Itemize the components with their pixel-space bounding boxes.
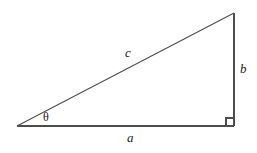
adjacent-side-label: a — [127, 131, 134, 144]
side-c-line — [17, 13, 234, 126]
right-triangle-figure: c b a θ — [0, 0, 257, 153]
opposite-side-label: b — [240, 62, 247, 75]
theta-angle-label: θ — [43, 111, 49, 123]
hypotenuse-label: c — [125, 46, 131, 59]
right-angle-marker-icon — [226, 118, 234, 126]
